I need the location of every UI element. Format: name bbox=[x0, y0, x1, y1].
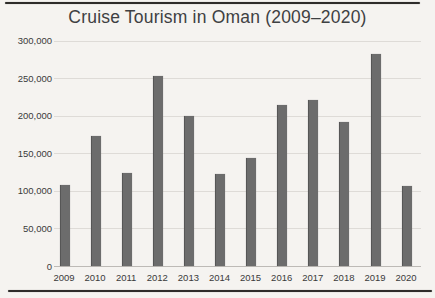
bar-chart-plot-area: 050,000100,000150,000200,000250,000300,0… bbox=[0, 0, 435, 298]
x-tick-label-2015: 2015 bbox=[235, 272, 267, 283]
bar-2010 bbox=[91, 136, 101, 266]
y-tick-label-0: 0 bbox=[0, 261, 52, 272]
x-tick-label-2011: 2011 bbox=[110, 272, 142, 283]
bar-2017 bbox=[308, 100, 318, 266]
x-tick-label-2016: 2016 bbox=[266, 272, 298, 283]
x-axis-line bbox=[54, 266, 421, 267]
x-tick-label-2018: 2018 bbox=[328, 272, 360, 283]
gridline-250000 bbox=[54, 78, 421, 79]
y-tick-label-150000: 150,000 bbox=[0, 148, 52, 159]
y-tick-label-250000: 250,000 bbox=[0, 73, 52, 84]
bottom-border-rule bbox=[8, 290, 432, 292]
bar-2014 bbox=[215, 174, 225, 266]
gridline-50000 bbox=[54, 228, 421, 229]
gridline-300000 bbox=[54, 41, 421, 42]
gridline-200000 bbox=[54, 116, 421, 117]
scanned-chart-page: Cruise Tourism in Oman (2009–2020) 050,0… bbox=[0, 0, 435, 298]
bar-2012 bbox=[153, 76, 163, 267]
x-tick-label-2020: 2020 bbox=[390, 272, 422, 283]
bar-2013 bbox=[184, 116, 194, 266]
y-tick-label-100000: 100,000 bbox=[0, 185, 52, 196]
bar-2009 bbox=[60, 185, 70, 266]
y-tick-label-300000: 300,000 bbox=[0, 35, 52, 46]
y-tick-label-50000: 50,000 bbox=[0, 223, 52, 234]
bar-2011 bbox=[122, 173, 132, 267]
y-tick-label-200000: 200,000 bbox=[0, 110, 52, 121]
x-tick-label-2014: 2014 bbox=[204, 272, 236, 283]
x-tick-label-2017: 2017 bbox=[297, 272, 329, 283]
bar-2015 bbox=[246, 158, 256, 266]
x-tick-label-2019: 2019 bbox=[359, 272, 391, 283]
gridline-100000 bbox=[54, 191, 421, 192]
bar-2018 bbox=[339, 122, 349, 266]
bar-2016 bbox=[277, 105, 287, 267]
bar-2019 bbox=[371, 54, 381, 267]
x-tick-label-2013: 2013 bbox=[172, 272, 204, 283]
bar-2020 bbox=[402, 186, 412, 266]
gridline-150000 bbox=[54, 153, 421, 154]
x-tick-label-2010: 2010 bbox=[79, 272, 111, 283]
x-tick-label-2012: 2012 bbox=[141, 272, 173, 283]
x-tick-label-2009: 2009 bbox=[48, 272, 80, 283]
